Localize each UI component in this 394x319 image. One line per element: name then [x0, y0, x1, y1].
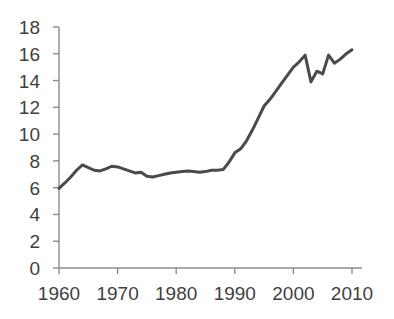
- y-tick-label: 10: [6, 125, 40, 144]
- y-tick-label: 12: [6, 98, 40, 117]
- y-tick-label: 18: [6, 18, 40, 37]
- x-tick-label: 2010: [323, 284, 381, 303]
- x-tick-label: 1960: [30, 284, 88, 303]
- y-tick-label: 4: [6, 205, 40, 224]
- x-tick-label: 1990: [206, 284, 264, 303]
- x-axis-ticks: [59, 268, 352, 274]
- x-tick-label: 1980: [147, 284, 205, 303]
- chart-plot-area: [0, 0, 394, 319]
- y-tick-label: 0: [6, 259, 40, 278]
- line-chart: 024681012141618 196019701980199020002010: [0, 0, 394, 319]
- y-tick-label: 8: [6, 152, 40, 171]
- y-tick-label: 6: [6, 179, 40, 198]
- y-tick-label: 2: [6, 232, 40, 251]
- y-axis: [53, 27, 59, 268]
- y-tick-label: 14: [6, 72, 40, 91]
- x-axis: [59, 268, 362, 274]
- y-axis-ticks: [53, 27, 59, 268]
- x-tick-label: 2000: [264, 284, 322, 303]
- y-tick-label: 16: [6, 45, 40, 64]
- data-series-line: [59, 50, 352, 189]
- x-tick-label: 1970: [89, 284, 147, 303]
